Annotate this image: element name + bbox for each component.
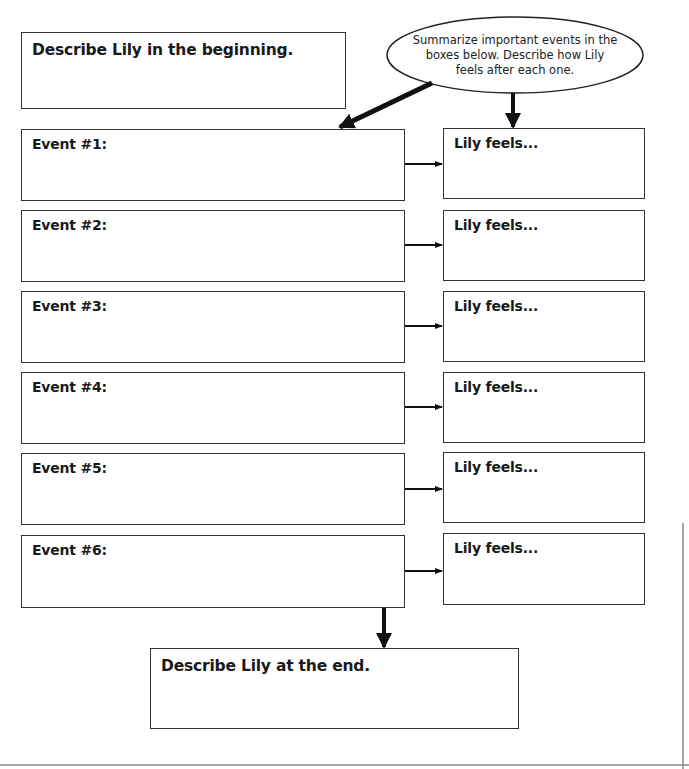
feeling-box-2[interactable]: Lily feels... (443, 210, 645, 281)
event-box-6[interactable]: Event #6: (21, 535, 405, 608)
event-label: Event #3: (32, 298, 107, 314)
feeling-box-5[interactable]: Lily feels... (443, 452, 645, 523)
event-label: Event #1: (32, 136, 107, 152)
instruction-bubble-text: Summarize important events in the boxes … (387, 17, 643, 93)
feeling-label: Lily feels... (454, 135, 538, 151)
feeling-box-3[interactable]: Lily feels... (443, 291, 645, 362)
event-box-1[interactable]: Event #1: (21, 129, 405, 201)
end-box-label: Describe Lily at the end. (161, 657, 370, 675)
event-label: Event #5: (32, 460, 107, 476)
feeling-label: Lily feels... (454, 298, 538, 314)
feeling-box-4[interactable]: Lily feels... (443, 372, 645, 443)
event-label: Event #6: (32, 542, 107, 558)
feeling-label: Lily feels... (454, 540, 538, 556)
end-box[interactable]: Describe Lily at the end. (150, 648, 519, 729)
beginning-box[interactable]: Describe Lily in the beginning. (21, 32, 346, 109)
feeling-label: Lily feels... (454, 459, 538, 475)
feeling-box-6[interactable]: Lily feels... (443, 533, 645, 605)
feeling-box-1[interactable]: Lily feels... (443, 128, 645, 199)
event-label: Event #2: (32, 217, 107, 233)
event-box-2[interactable]: Event #2: (21, 210, 405, 282)
beginning-box-label: Describe Lily in the beginning. (32, 41, 293, 59)
feeling-label: Lily feels... (454, 217, 538, 233)
feeling-label: Lily feels... (454, 379, 538, 395)
event-box-3[interactable]: Event #3: (21, 291, 405, 363)
event-box-5[interactable]: Event #5: (21, 453, 405, 525)
event-box-4[interactable]: Event #4: (21, 372, 405, 444)
event-label: Event #4: (32, 379, 107, 395)
